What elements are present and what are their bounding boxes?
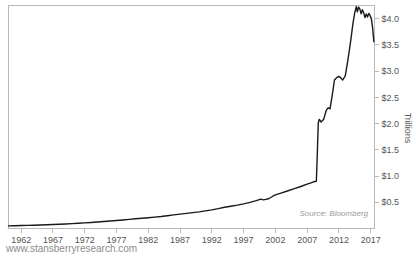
y-tick-label: $4.0 xyxy=(382,14,400,24)
x-tick-label: 2002 xyxy=(265,235,285,245)
chart-canvas: 1962196719721977198219871992199720022007… xyxy=(0,0,416,257)
x-tick-label: 1987 xyxy=(170,235,190,245)
y-tick-label: $2.5 xyxy=(382,93,400,103)
source-attribution: Source: Bloomberg xyxy=(300,209,369,218)
y-tick-label: $2.0 xyxy=(382,119,400,129)
y-axis-title: Trillions xyxy=(403,113,413,144)
x-tick-label: 2012 xyxy=(329,235,349,245)
y-tick-label: $1.5 xyxy=(382,145,400,155)
chart-background xyxy=(0,0,416,257)
x-tick-label: 1997 xyxy=(234,235,254,245)
y-tick-label: $3.0 xyxy=(382,66,400,76)
x-tick-label: 2007 xyxy=(297,235,317,245)
federal-reserve-balance-sheet-chart: 1962196719721977198219871992199720022007… xyxy=(0,0,416,257)
y-tick-label: $3.5 xyxy=(382,40,400,50)
x-tick-label: 2017 xyxy=(361,235,381,245)
site-watermark: www.stansberryresearch.com xyxy=(5,243,137,254)
x-tick-label: 1982 xyxy=(138,235,158,245)
x-tick-label: 1992 xyxy=(202,235,222,245)
y-tick-label: $0.5 xyxy=(382,197,400,207)
y-tick-label: $1.0 xyxy=(382,171,400,181)
